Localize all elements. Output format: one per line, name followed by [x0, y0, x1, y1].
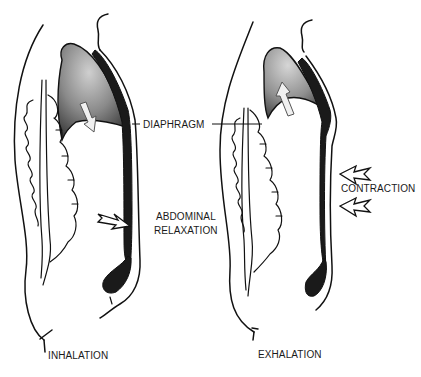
spinal-cord-line-2	[248, 108, 253, 296]
back-outline-tail	[40, 330, 52, 352]
vertebra-ticks	[260, 144, 282, 216]
vertebral-bodies	[250, 110, 282, 272]
contraction-arrow-lower-icon	[340, 198, 370, 216]
exhalation-label: EXHALATION	[258, 349, 322, 360]
abdominal-bulb	[103, 256, 131, 293]
neck-outline	[301, 20, 312, 52]
contraction-arrow-upper-icon	[340, 166, 370, 184]
diaphragm-label: DIAPHRAGM	[143, 119, 204, 130]
spinous-processes	[24, 100, 38, 226]
spinal-cord-line-1	[242, 108, 246, 290]
inhalation-panel	[14, 14, 140, 352]
spinal-cord-line-1	[40, 80, 43, 278]
abdominal-label-line2: RELAXATION	[154, 225, 218, 236]
spinal-cord-line-2	[43, 80, 51, 285]
neck-outline	[97, 14, 108, 50]
contraction-label: CONTRACTION	[341, 183, 415, 194]
inhalation-label: INHALATION	[48, 350, 108, 361]
abdominal-bulb	[305, 258, 326, 296]
exhalation-panel	[212, 20, 370, 340]
breathing-diagram: DIAPHRAGM ABDOMINAL RELAXATION CONTRACTI…	[0, 0, 421, 377]
bulb-tick	[110, 297, 112, 304]
abdominal-label-line1: ABDOMINAL	[156, 211, 216, 222]
back-outline-tail	[252, 328, 258, 340]
